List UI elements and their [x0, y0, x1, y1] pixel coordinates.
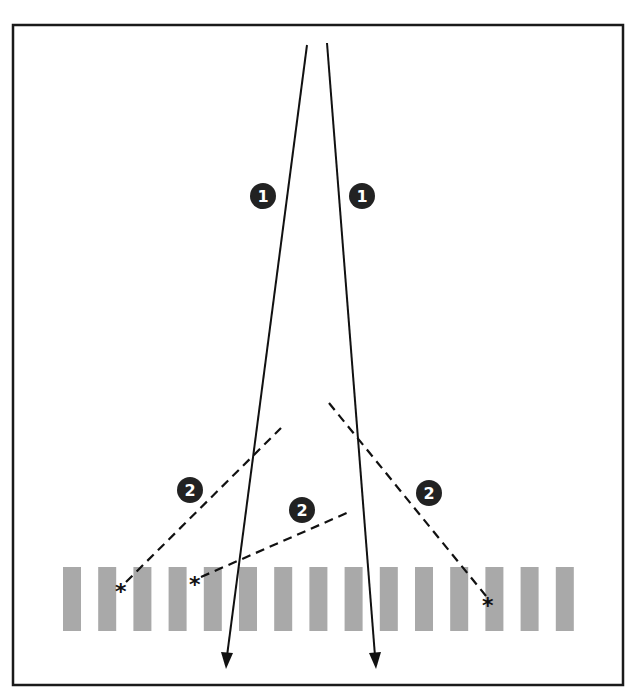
- grating: [63, 567, 574, 631]
- grating-bar: [556, 567, 574, 631]
- badge-ray-1-right: 1: [349, 183, 375, 209]
- grating-bar: [380, 567, 398, 631]
- scatter-origin-middle-marker: *: [189, 572, 201, 597]
- grating-bar: [169, 567, 187, 631]
- grating-bar: [521, 567, 539, 631]
- badge-scatter-2-left: 2: [177, 477, 203, 503]
- grating-bar: [274, 567, 292, 631]
- badge-label: 1: [257, 187, 268, 206]
- grating-bar: [98, 567, 116, 631]
- grating-bar: [415, 567, 433, 631]
- scatter-origin-right-marker: *: [482, 593, 494, 618]
- grating-bar: [63, 567, 81, 631]
- badge-label: 2: [296, 501, 307, 520]
- badge-label: 1: [356, 187, 367, 206]
- incident-ray-right: [327, 43, 375, 656]
- grating-bar: [450, 567, 468, 631]
- grating-bar: [345, 567, 363, 631]
- scatter-origin-left-marker: *: [115, 579, 127, 604]
- badge-scatter-2-middle: 2: [289, 497, 315, 523]
- badge-scatter-2-right: 2: [416, 480, 442, 506]
- grating-bar: [204, 567, 222, 631]
- badge-label: 2: [423, 484, 434, 503]
- arrowhead-left: [221, 652, 233, 669]
- scattered-ray-left: [126, 428, 281, 582]
- diagram-canvas: * * * 1 1 2 2 2: [0, 0, 634, 689]
- incident-ray-left: [227, 45, 307, 656]
- badge-label: 2: [184, 481, 195, 500]
- grating-bar: [309, 567, 327, 631]
- arrowhead-right: [369, 652, 381, 669]
- grating-bar: [133, 567, 151, 631]
- badge-ray-1-left: 1: [250, 183, 276, 209]
- grating-bar: [239, 567, 257, 631]
